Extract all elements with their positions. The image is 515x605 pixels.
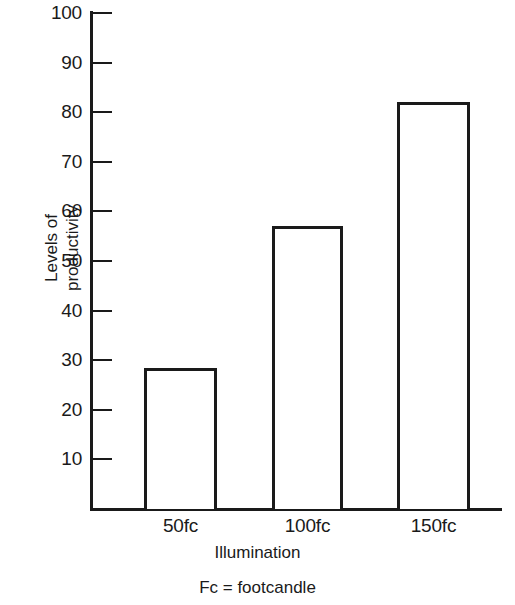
y-axis-tick-label-text: 30: [26, 350, 82, 369]
y-axis-tick: [93, 62, 112, 64]
y-axis-tick-label: 30: [26, 350, 82, 369]
y-axis-tick: [93, 161, 112, 163]
bar: [272, 226, 343, 509]
x-axis-title: Illumination: [0, 543, 515, 563]
y-axis-tick-label-text: 60: [26, 201, 82, 220]
y-axis-tick-label-text: 40: [26, 301, 82, 320]
y-axis-tick-label-text: 90: [26, 53, 82, 72]
y-axis-tick-label: 20: [26, 400, 82, 419]
x-axis-tick-label: 150fc: [367, 515, 500, 537]
y-axis-tick: [93, 12, 112, 14]
bar: [144, 368, 217, 509]
chart-footnote: Fc = footcandle: [0, 578, 515, 598]
y-axis-tick-label-text: 50: [26, 251, 82, 270]
y-axis-tick-label: 10: [26, 449, 82, 468]
y-axis-tick-label: 100: [26, 3, 82, 22]
y-axis-tick-label: 90: [26, 53, 82, 72]
y-axis-tick-label: 50: [26, 251, 82, 270]
y-axis-tick-label: 80: [26, 102, 82, 121]
y-axis-tick-label: 60: [26, 201, 82, 220]
y-axis-tick-label: 40: [26, 301, 82, 320]
x-axis-tick-label: 50fc: [114, 515, 247, 537]
y-axis-tick: [93, 409, 112, 411]
y-axis-tick-label: 70: [26, 152, 82, 171]
y-axis-tick-label-text: 20: [26, 400, 82, 419]
y-axis-tick: [93, 111, 112, 113]
x-axis-tick-label: 100fc: [242, 515, 373, 537]
y-axis-tick: [93, 359, 112, 361]
y-axis-tick-label-text: 80: [26, 102, 82, 121]
y-axis-tick-label-text: 100: [26, 3, 82, 22]
bar-chart-figure: Levels of productivity 10090807060504030…: [0, 0, 515, 605]
y-axis-tick: [93, 310, 112, 312]
y-axis-tick: [93, 210, 112, 212]
y-axis-tick: [93, 260, 112, 262]
y-axis-tick: [93, 458, 112, 460]
y-axis-tick-label-text: 10: [26, 449, 82, 468]
bar: [397, 102, 470, 509]
y-axis-tick-label-text: 70: [26, 152, 82, 171]
